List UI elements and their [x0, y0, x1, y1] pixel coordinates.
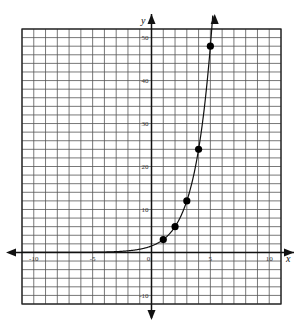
exponential-curve [22, 16, 214, 253]
data-point [183, 197, 190, 204]
y-tick-label: -10 [139, 292, 149, 300]
y-tick-label: 20 [142, 163, 150, 171]
x-tick-label: -5 [90, 255, 96, 263]
data-point [160, 236, 167, 243]
x-tick-label: 10 [266, 255, 274, 263]
y-tick-label: 10 [142, 206, 150, 214]
exponential-graph: -10-50510-101020304050 x y [0, 0, 304, 332]
x-axis-label: x [285, 253, 291, 264]
y-axis-up-arrow-icon [148, 14, 156, 24]
y-axis-down-arrow-icon [148, 310, 156, 320]
axes [6, 14, 294, 320]
y-tick-label: 40 [142, 77, 150, 85]
data-point [171, 223, 178, 230]
x-tick-label: 0 [147, 255, 151, 263]
data-point [207, 43, 214, 50]
x-tick-label: 5 [209, 255, 213, 263]
y-tick-label: 30 [142, 120, 150, 128]
x-axis-left-arrow-icon [6, 248, 16, 256]
data-point [195, 146, 202, 153]
x-tick-label: -10 [29, 255, 39, 263]
y-tick-label: 50 [142, 34, 150, 42]
y-axis-label: y [140, 15, 146, 26]
